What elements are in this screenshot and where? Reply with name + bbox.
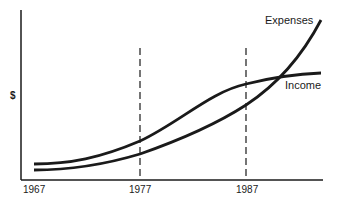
- x-tick-1977: 1977: [129, 184, 152, 195]
- income-curve: [34, 73, 321, 164]
- x-tick-1987: 1987: [236, 184, 259, 195]
- expenses-curve: [34, 20, 321, 170]
- chart: $ 1967 1977 1987 Expenses Income: [0, 0, 339, 202]
- y-axis-label: $: [10, 90, 16, 101]
- income-label: Income: [285, 79, 321, 91]
- x-tick-1967: 1967: [23, 184, 46, 195]
- expenses-label: Expenses: [265, 14, 314, 26]
